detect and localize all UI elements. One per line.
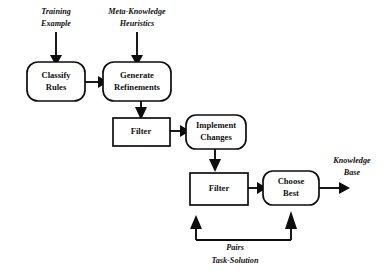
node-generate-refinements-label-line1: Generate — [120, 70, 154, 80]
annotation-knowledge-base-line1: Knowledge — [332, 156, 371, 165]
node-classify-rules-label-line1: Classify — [41, 70, 71, 80]
annotation-meta-knowledge-line1: Meta-Knowledge — [107, 7, 166, 16]
annotation-meta-knowledge-line2: Heuristics — [119, 19, 155, 28]
annotation-pairs-line1: Pairs — [226, 243, 244, 252]
node-filter-2-label: Filter — [209, 183, 230, 193]
node-filter-1-label: Filter — [131, 126, 152, 136]
annotation-knowledge-base: Knowledge Base — [332, 156, 371, 177]
node-filter-1[interactable]: Filter — [113, 118, 170, 146]
flowchart-svg: Classify Rules Generate Refinements Filt… — [0, 0, 387, 271]
node-classify-rules-label-line2: Rules — [46, 82, 67, 92]
node-choose-best-label-line2: Best — [283, 188, 299, 198]
edge-implement-to-filter2 — [209, 149, 221, 172]
node-filter-2[interactable]: Filter — [190, 173, 248, 205]
node-choose-best-label-line1: Choose — [278, 176, 305, 186]
annotation-pairs-task-solution: Pairs Task-Solution — [211, 243, 258, 265]
annotation-training-example-line1: Training — [41, 7, 71, 16]
edge-choose-to-knowledge-base — [319, 182, 350, 194]
node-generate-refinements-label-line2: Refinements — [114, 82, 160, 92]
annotation-pairs-line2: Task-Solution — [211, 256, 258, 265]
node-classify-rules[interactable]: Classify Rules — [27, 62, 85, 101]
edge-meta-to-generate — [131, 32, 143, 66]
node-implement-changes-label-line2: Changes — [200, 132, 232, 142]
node-generate-refinements[interactable]: Generate Refinements — [103, 62, 171, 101]
node-implement-changes[interactable]: Implement Changes — [186, 115, 246, 149]
node-choose-best[interactable]: Choose Best — [263, 171, 319, 205]
annotation-training-example: Training Example — [40, 7, 71, 28]
diagram-canvas: Classify Rules Generate Refinements Filt… — [0, 0, 387, 271]
edge-training-to-classify — [50, 32, 62, 66]
edge-feedback-loop — [190, 211, 297, 240]
annotation-knowledge-base-line2: Base — [343, 168, 361, 177]
node-implement-changes-label-line1: Implement — [196, 120, 236, 130]
annotation-training-example-line2: Example — [40, 19, 71, 28]
annotation-meta-knowledge-heuristics: Meta-Knowledge Heuristics — [107, 7, 166, 28]
